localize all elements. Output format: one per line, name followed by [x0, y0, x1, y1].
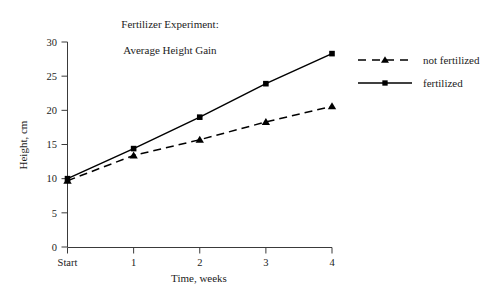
legend-item-fertilized[interactable]: fertilized: [358, 77, 463, 89]
data-point-marker: [329, 51, 335, 57]
x-tick-label: 3: [263, 257, 268, 268]
data-point-marker: [129, 151, 137, 158]
data-point-marker: [263, 81, 269, 87]
data-point-marker: [196, 136, 204, 143]
x-axis-label: Time, weeks: [171, 272, 227, 284]
legend-label: not fertilized: [423, 54, 480, 66]
y-axis-ticks: 051015202530: [47, 37, 68, 253]
x-axis-ticks: Start1234: [58, 248, 336, 269]
x-tick-label: Start: [58, 257, 78, 268]
chart-legend: not fertilizedfertilized: [358, 54, 480, 89]
series-fertilized: [65, 51, 335, 182]
y-tick-label: 15: [47, 139, 58, 150]
y-tick-label: 20: [47, 105, 58, 116]
legend-label: fertilized: [423, 77, 463, 89]
y-axis-label: Height, cm: [17, 120, 29, 169]
y-tick-label: 0: [52, 242, 57, 253]
axes: [68, 42, 333, 248]
y-tick-label: 30: [47, 37, 58, 48]
x-tick-label: 4: [329, 257, 335, 268]
line-chart-plot: 051015202530 Start1234 Time, weeks Heigh…: [0, 0, 491, 300]
x-tick-label: 2: [197, 257, 202, 268]
data-point-marker: [131, 146, 137, 152]
y-tick-label: 5: [52, 208, 57, 219]
legend-marker-icon: [382, 80, 387, 85]
data-point-marker: [328, 102, 336, 109]
chart-figure: Fertilizer Experiment: Average Height Ga…: [0, 0, 491, 300]
legend-item-not-fertilized[interactable]: not fertilized: [358, 54, 480, 66]
data-series-layer: [63, 51, 336, 184]
y-tick-label: 25: [47, 71, 58, 82]
data-point-marker: [197, 114, 203, 120]
data-point-marker: [65, 176, 71, 182]
x-tick-label: 1: [131, 257, 136, 268]
y-tick-label: 10: [47, 173, 58, 184]
